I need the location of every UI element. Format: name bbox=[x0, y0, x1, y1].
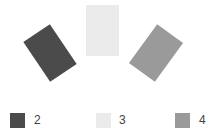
legend-label-4: 4 bbox=[199, 112, 206, 128]
legend-swatch-4 bbox=[175, 113, 190, 128]
legend-swatch-2 bbox=[10, 113, 25, 128]
card-2 bbox=[23, 24, 76, 82]
legend-swatch-3 bbox=[96, 113, 111, 128]
legend-label-2: 2 bbox=[34, 112, 41, 128]
legend-label-3: 3 bbox=[119, 112, 126, 128]
card-4 bbox=[128, 24, 182, 82]
card-3 bbox=[86, 5, 119, 56]
